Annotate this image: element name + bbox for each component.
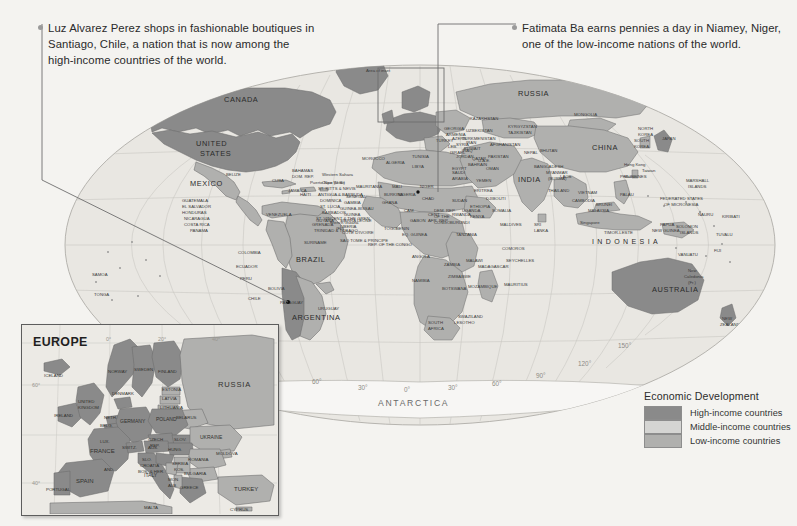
svg-text:TUNISIA: TUNISIA: [412, 154, 429, 159]
svg-text:MALTA: MALTA: [144, 505, 158, 510]
svg-text:ARABIA: ARABIA: [452, 176, 468, 181]
svg-text:Taiwan: Taiwan: [642, 168, 656, 173]
svg-text:MALDIVES: MALDIVES: [500, 222, 522, 227]
svg-text:CANADA: CANADA: [224, 95, 258, 104]
svg-text:PALAU: PALAU: [620, 192, 634, 197]
svg-text:60°: 60°: [312, 378, 322, 385]
svg-text:LITHUANIA: LITHUANIA: [160, 405, 183, 410]
svg-text:SUDAN: SUDAN: [452, 198, 467, 203]
svg-text:SURINAME: SURINAME: [304, 240, 327, 245]
svg-text:60°: 60°: [492, 380, 502, 387]
svg-text:BRAZIL: BRAZIL: [296, 255, 325, 264]
callout-dot-santiago: [38, 25, 43, 30]
legend-swatch-high-income: [644, 406, 682, 420]
svg-text:LIBERIA: LIBERIA: [340, 224, 357, 229]
svg-text:ICELAND: ICELAND: [44, 373, 63, 378]
svg-text:HONDURAS: HONDURAS: [182, 210, 207, 215]
svg-text:DOMINICA: DOMINICA: [320, 198, 342, 203]
svg-text:ST. LUCIA: ST. LUCIA: [320, 204, 340, 209]
europe-inset: EUROPE: [21, 324, 279, 516]
svg-text:EL SALVADOR: EL SALVADOR: [182, 204, 211, 209]
svg-text:NIGERIA: NIGERIA: [398, 192, 416, 197]
svg-text:UKRAINE: UKRAINE: [200, 434, 223, 440]
svg-text:AUSTRALIA: AUSTRALIA: [652, 285, 698, 294]
svg-text:SLO.: SLO.: [142, 457, 152, 462]
svg-text:BELARUS: BELARUS: [176, 415, 197, 420]
svg-text:150°: 150°: [618, 342, 632, 349]
svg-text:BOS. & HER.: BOS. & HER.: [138, 469, 164, 474]
svg-text:LATVIA: LATVIA: [162, 396, 177, 401]
svg-text:TANZANIA: TANZANIA: [456, 232, 477, 237]
svg-text:Caledonia: Caledonia: [684, 274, 704, 279]
svg-text:URUGUAY: URUGUAY: [318, 306, 339, 311]
label-indonesia: INDONESIA: [592, 238, 661, 245]
svg-text:PORTUGAL: PORTUGAL: [46, 487, 71, 492]
svg-text:SWAZILAND: SWAZILAND: [458, 314, 483, 319]
svg-text:BURUNDI: BURUNDI: [450, 220, 470, 225]
svg-text:30°: 30°: [358, 384, 368, 391]
svg-text:SWEDEN: SWEDEN: [134, 367, 153, 372]
svg-text:40°: 40°: [32, 480, 40, 486]
svg-text:LAOS: LAOS: [560, 174, 572, 179]
svg-text:NEW GUINEA: NEW GUINEA: [652, 228, 680, 233]
svg-text:U.S.: U.S.: [206, 86, 214, 91]
svg-text:KOREA: KOREA: [638, 132, 653, 137]
svg-text:TAJIKISTAN: TAJIKISTAN: [508, 130, 532, 135]
svg-text:KOS.: KOS.: [174, 467, 185, 472]
label-antarctica: ANTARCTICA: [378, 398, 449, 408]
svg-text:Singapore: Singapore: [580, 220, 600, 225]
svg-text:VANUATU: VANUATU: [678, 252, 698, 257]
svg-text:Macao: Macao: [624, 174, 638, 179]
svg-text:ZAMBIA: ZAMBIA: [444, 262, 460, 267]
svg-text:STATES: STATES: [200, 149, 231, 158]
svg-text:20°: 20°: [158, 336, 166, 342]
svg-text:FIJI: FIJI: [714, 248, 721, 253]
svg-text:CAM.: CAM.: [404, 208, 415, 213]
svg-text:MON.: MON.: [168, 477, 179, 482]
callout-niamey-text: Fatimata Ba earns pennies a day in Niame…: [522, 22, 781, 50]
svg-text:60°: 60°: [32, 382, 40, 388]
legend-label-middle-income: Middle-income countries: [682, 420, 791, 434]
svg-text:KIRIBATI: KIRIBATI: [722, 214, 740, 219]
svg-text:NEW: NEW: [722, 316, 733, 321]
legend-label-low-income: Low-income countries: [682, 434, 780, 448]
svg-text:NIGER: NIGER: [420, 184, 434, 189]
svg-text:NORTH: NORTH: [638, 126, 653, 131]
svg-text:PANAMA: PANAMA: [190, 228, 208, 233]
svg-text:SIERRA LEONE: SIERRA LEONE: [340, 218, 372, 223]
svg-text:FINLAND: FINLAND: [158, 369, 177, 374]
svg-text:EQ. GUINEA: EQ. GUINEA: [402, 232, 427, 237]
svg-text:MOROCCO: MOROCCO: [362, 156, 386, 161]
svg-text:(Fr.): (Fr.): [688, 280, 696, 285]
svg-text:KAZAKHSTAN: KAZAKHSTAN: [470, 116, 498, 121]
svg-text:KENYA: KENYA: [470, 214, 484, 219]
legend-title: Economic Development: [644, 390, 794, 402]
svg-text:POLAND: POLAND: [156, 416, 177, 422]
svg-text:BHUTAN: BHUTAN: [540, 148, 557, 153]
svg-text:KYRGYZSTAN: KYRGYZSTAN: [508, 124, 537, 129]
svg-text:CHINA: CHINA: [592, 143, 618, 152]
svg-text:BULGARIA: BULGARIA: [184, 471, 206, 476]
svg-text:30°: 30°: [448, 384, 458, 391]
svg-text:OMAN: OMAN: [486, 166, 499, 171]
svg-text:CHILE: CHILE: [248, 296, 261, 301]
svg-text:MALAYSIA: MALAYSIA: [588, 208, 609, 213]
svg-text:TIMOR-LESTE: TIMOR-LESTE: [604, 230, 633, 235]
svg-text:BELG.: BELG.: [100, 423, 113, 428]
map-figure: 30° 0° 30° 30° 30° 150° 120° 90° 60° 30°…: [0, 0, 797, 526]
callout-niamey: Fatimata Ba earns pennies a day in Niame…: [522, 20, 794, 52]
svg-text:DENMARK: DENMARK: [112, 391, 134, 396]
svg-text:SRI: SRI: [534, 222, 541, 227]
svg-text:BOLIVIA: BOLIVIA: [268, 286, 285, 291]
svg-text:BANGLADESH: BANGLADESH: [534, 164, 563, 169]
svg-text:Cape Verde: Cape Verde: [322, 180, 345, 185]
svg-text:LEB.: LEB.: [448, 144, 457, 149]
svg-text:LANKA: LANKA: [534, 228, 548, 233]
svg-text:YEMEN: YEMEN: [476, 178, 491, 183]
svg-text:UGANDA: UGANDA: [462, 208, 481, 213]
legend-item-high: High-income countries: [644, 406, 794, 420]
svg-text:AFRICA: AFRICA: [428, 326, 444, 331]
svg-text:GUINEA-BISSAU: GUINEA-BISSAU: [340, 206, 374, 211]
svg-text:ECUADOR: ECUADOR: [236, 264, 258, 269]
svg-text:CYPRUS: CYPRUS: [230, 507, 248, 512]
